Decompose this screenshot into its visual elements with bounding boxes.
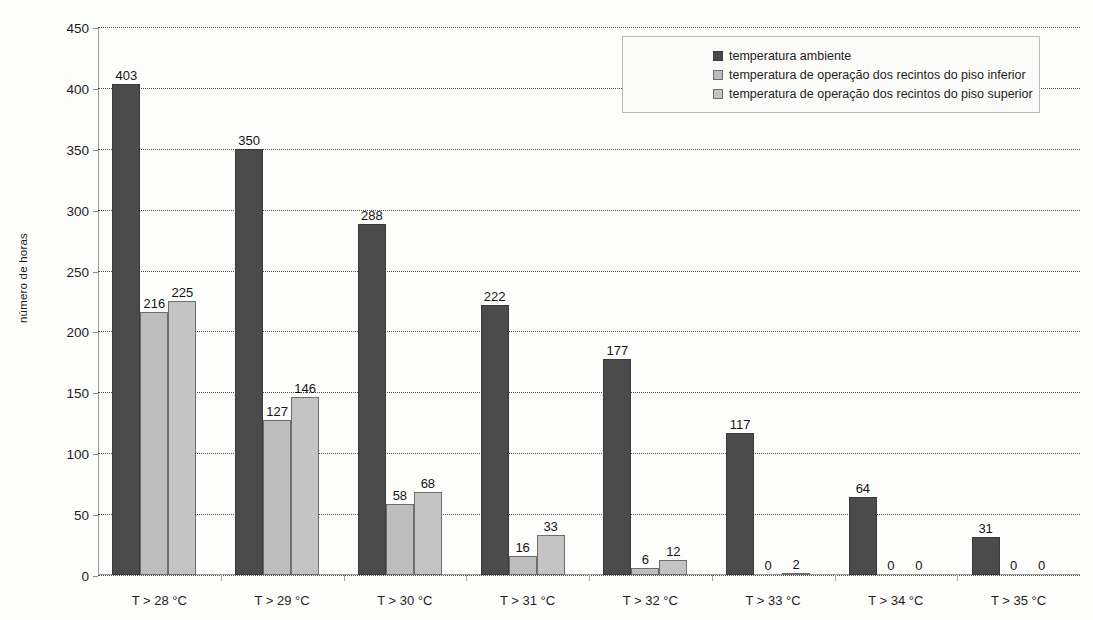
bar: 33 xyxy=(537,535,565,575)
bar: 68 xyxy=(414,492,442,575)
bar-value-label: 2 xyxy=(793,558,800,571)
bar-group: 2221633T > 31 °C xyxy=(466,27,589,575)
bar-value-label: 350 xyxy=(238,134,260,147)
x-tick-label: T > 34 °C xyxy=(868,593,923,608)
bar: 222 xyxy=(481,305,509,575)
legend-label: temperatura ambiente xyxy=(729,49,851,63)
x-axis-tick-mark xyxy=(466,575,467,581)
bar: 64 xyxy=(849,497,877,575)
y-tick-label: 0 xyxy=(81,569,89,584)
bar: 117 xyxy=(726,433,754,575)
x-tick-label: T > 32 °C xyxy=(623,593,678,608)
legend-swatch-icon xyxy=(713,51,723,61)
bar-value-label: 12 xyxy=(666,545,680,558)
bar-value-label: 225 xyxy=(172,286,194,299)
bar: 31 xyxy=(972,537,1000,575)
bar-group: 2885868T > 30 °C xyxy=(344,27,467,575)
bar-value-label: 31 xyxy=(978,522,992,535)
bar-value-label: 68 xyxy=(421,477,435,490)
chart-legend: temperatura ambientetemperatura de opera… xyxy=(622,36,1040,113)
bar-value-label: 288 xyxy=(361,209,383,222)
legend-label: temperatura de operação dos recintos do … xyxy=(729,68,1026,82)
bar-value-label: 403 xyxy=(116,69,138,82)
y-tick-label: 100 xyxy=(66,447,89,462)
bar: 403 xyxy=(112,84,140,575)
bar-value-label: 0 xyxy=(1010,559,1017,572)
bar: 6 xyxy=(631,568,659,575)
bar-value-label: 0 xyxy=(915,559,922,572)
bar: 146 xyxy=(291,397,319,575)
bar: 58 xyxy=(386,504,414,575)
bar-value-label: 117 xyxy=(730,418,751,431)
bar: 216 xyxy=(140,312,168,575)
bar-value-label: 33 xyxy=(543,520,557,533)
bar-value-label: 146 xyxy=(294,382,316,395)
x-axis-tick-mark xyxy=(589,575,590,581)
x-tick-label: T > 30 °C xyxy=(377,593,432,608)
x-axis-tick-mark xyxy=(221,575,222,581)
y-tick-label: 250 xyxy=(66,264,89,279)
bar: 16 xyxy=(509,556,537,575)
bar-value-label: 127 xyxy=(266,405,288,418)
legend-swatch-icon xyxy=(713,89,723,99)
bar: 288 xyxy=(358,224,386,575)
x-tick-label: T > 33 °C xyxy=(746,593,801,608)
bar-value-label: 177 xyxy=(607,344,629,357)
bar: 177 xyxy=(603,359,631,575)
bar-value-label: 6 xyxy=(642,553,649,566)
y-axis-title: número de horas xyxy=(17,193,29,363)
y-tick-label: 200 xyxy=(66,325,89,340)
bar-value-label: 222 xyxy=(484,290,506,303)
bar-value-label: 64 xyxy=(856,482,870,495)
y-tick-mark xyxy=(93,576,98,577)
x-tick-label: T > 29 °C xyxy=(255,593,310,608)
y-tick-label: 300 xyxy=(66,203,89,218)
bar-value-label: 16 xyxy=(515,541,529,554)
legend-swatch-icon xyxy=(713,70,723,80)
bar: 2 xyxy=(782,573,810,575)
legend-item: temperatura de operação dos recintos do … xyxy=(623,65,1039,84)
bar-value-label: 216 xyxy=(144,297,166,310)
legend-label: temperatura de operação dos recintos do … xyxy=(729,87,1033,101)
x-axis-tick-mark xyxy=(957,575,958,581)
x-tick-label: T > 28 °C xyxy=(132,593,187,608)
bar-group: 350127146T > 29 °C xyxy=(221,27,344,575)
y-tick-label: 50 xyxy=(74,508,89,523)
bar: 225 xyxy=(168,301,196,575)
bar-group: 403216225T > 28 °C xyxy=(98,27,221,575)
y-tick-label: 400 xyxy=(66,81,89,96)
chart-canvas: número de horas 050100150200250300350400… xyxy=(0,0,1093,620)
y-tick-label: 350 xyxy=(66,142,89,157)
bar: 12 xyxy=(659,560,687,575)
x-axis-tick-mark xyxy=(835,575,836,581)
legend-item: temperatura ambiente xyxy=(623,46,1039,65)
bar: 127 xyxy=(263,420,291,575)
y-tick-label: 450 xyxy=(66,21,89,36)
bar-value-label: 0 xyxy=(1038,559,1045,572)
x-tick-label: T > 35 °C xyxy=(991,593,1046,608)
legend-item: temperatura de operação dos recintos do … xyxy=(623,84,1039,103)
y-tick-label: 150 xyxy=(66,386,89,401)
x-axis-tick-mark xyxy=(712,575,713,581)
bar-value-label: 0 xyxy=(887,559,894,572)
x-tick-label: T > 31 °C xyxy=(500,593,555,608)
x-axis-tick-mark xyxy=(344,575,345,581)
bar-value-label: 0 xyxy=(765,559,772,572)
bar: 350 xyxy=(235,149,263,575)
bar-value-label: 58 xyxy=(393,489,407,502)
